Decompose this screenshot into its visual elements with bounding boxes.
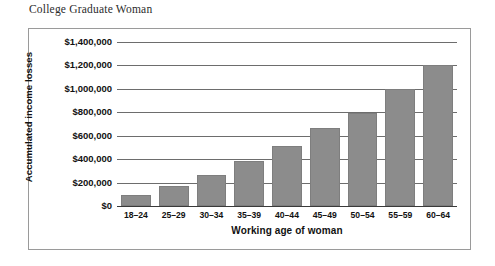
bar-slot: [193, 42, 231, 206]
bar: [348, 113, 378, 206]
y-axis-tick-label: $400,000: [0, 153, 112, 164]
bar-slot: [268, 42, 306, 206]
y-axis-tick-label: $600,000: [0, 130, 112, 141]
x-axis-tick-label: 60–64: [414, 210, 462, 220]
figure-caption: College Graduate Woman: [29, 3, 152, 15]
bar-slot: [344, 42, 382, 206]
bar: [272, 146, 302, 206]
bar: [234, 161, 264, 206]
bar: [197, 175, 227, 206]
bar: [423, 65, 453, 206]
bar: [121, 195, 151, 206]
bar-slot: [381, 42, 419, 206]
y-axis-tick-label: $1,000,000: [0, 83, 112, 94]
y-axis-tick-label: $0: [0, 200, 112, 211]
bar: [310, 128, 340, 206]
chart-frame: Accumulated income losses $0$200,000$400…: [28, 28, 471, 250]
bar-slot: [419, 42, 457, 206]
y-axis-tick-label: $200,000: [0, 177, 112, 188]
x-axis-title: Working age of woman: [117, 225, 457, 236]
bar-slot: [155, 42, 193, 206]
plot-area: $0$200,000$400,000$600,000$800,000$1,000…: [117, 42, 457, 206]
bar-slot: [230, 42, 268, 206]
bar-series: [117, 42, 457, 206]
y-axis-tick-label: $800,000: [0, 106, 112, 117]
bar-slot: [306, 42, 344, 206]
bar: [159, 186, 189, 206]
gridline: [117, 206, 457, 207]
bar-slot: [117, 42, 155, 206]
y-axis-tick-label: $1,400,000: [0, 36, 112, 47]
y-axis-tick-label: $1,200,000: [0, 59, 112, 70]
bar: [385, 89, 415, 206]
